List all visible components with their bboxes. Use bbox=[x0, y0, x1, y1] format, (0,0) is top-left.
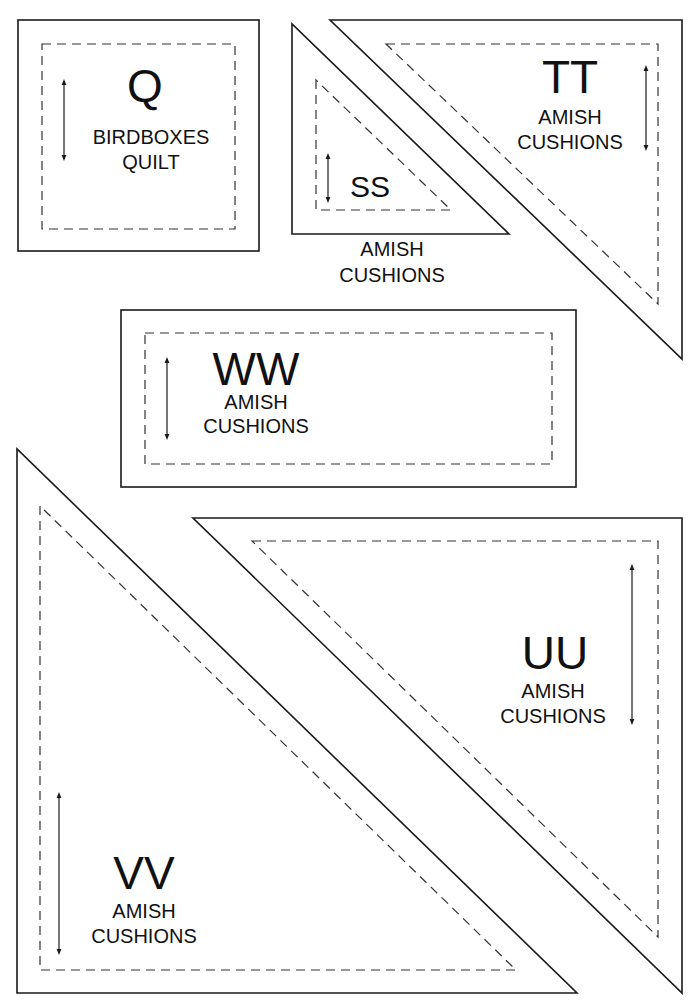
piece-tt-name-line2: CUSHIONS bbox=[517, 131, 623, 153]
piece-uu-name-line2: CUSHIONS bbox=[500, 705, 606, 727]
piece-ss-cut-line bbox=[292, 24, 509, 234]
piece-uu: UU AMISH CUSHIONS bbox=[193, 518, 682, 993]
piece-ss-letter: SS bbox=[350, 170, 390, 203]
piece-q-letter: Q bbox=[127, 60, 163, 112]
piece-uu-name-line1: AMISH bbox=[521, 680, 584, 702]
piece-ww-cut-line bbox=[121, 310, 576, 487]
piece-ww-name-line2: CUSHIONS bbox=[203, 415, 309, 437]
piece-ss-name-line1: AMISH bbox=[360, 238, 423, 260]
piece-vv-cut-line bbox=[17, 449, 577, 993]
piece-q: Q BIRDBOXES QUILT bbox=[18, 20, 259, 251]
piece-ss-name-line2: CUSHIONS bbox=[339, 264, 445, 286]
piece-ww: WW AMISH CUSHIONS bbox=[121, 310, 576, 487]
piece-q-name-line2: QUILT bbox=[122, 151, 179, 173]
piece-ww-name-line1: AMISH bbox=[224, 391, 287, 413]
piece-uu-letter: UU bbox=[522, 627, 588, 679]
piece-tt-letter: TT bbox=[542, 51, 598, 103]
piece-vv: VV AMISH CUSHIONS bbox=[17, 449, 577, 993]
piece-ww-seam-line bbox=[145, 333, 552, 464]
piece-uu-seam-line bbox=[252, 541, 658, 937]
piece-vv-name-line1: AMISH bbox=[112, 900, 175, 922]
piece-tt-name-line1: AMISH bbox=[538, 106, 601, 128]
template-sheet: Q BIRDBOXES QUILT SS AMISH CUSHIONS TT A… bbox=[0, 0, 696, 1003]
piece-vv-name-line2: CUSHIONS bbox=[91, 925, 197, 947]
piece-ss: SS AMISH CUSHIONS bbox=[292, 24, 509, 286]
piece-uu-cut-line bbox=[193, 518, 682, 993]
piece-ww-letter: WW bbox=[213, 343, 300, 395]
piece-q-name-line1: BIRDBOXES bbox=[93, 126, 210, 148]
piece-vv-letter: VV bbox=[113, 847, 175, 899]
